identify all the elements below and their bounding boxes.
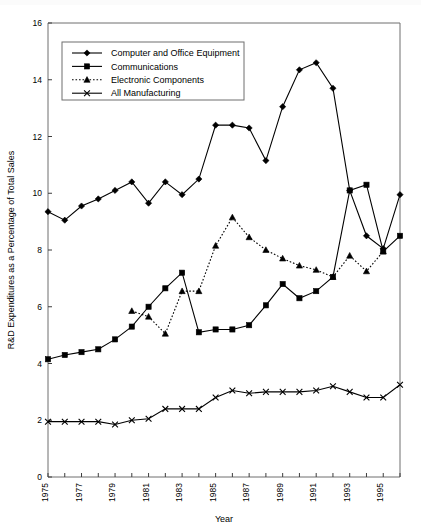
x-tick-label: 1989: [275, 483, 285, 502]
data-point-marker-square: [230, 327, 235, 332]
data-point-marker-triangle: [129, 308, 135, 314]
data-point-marker-square: [146, 304, 151, 309]
data-point-marker-diamond: [313, 60, 319, 66]
data-point-marker-square: [45, 357, 50, 362]
data-point-marker-square: [112, 337, 117, 342]
data-point-marker-square: [179, 270, 184, 275]
data-point-marker-diamond: [95, 196, 101, 202]
data-point-marker-square: [196, 330, 201, 335]
data-point-marker-square: [79, 350, 84, 355]
y-tick-label: 8: [37, 245, 42, 255]
data-point-marker-diamond: [213, 122, 219, 128]
x-tick-label: 1981: [141, 483, 151, 502]
data-point-marker-square: [247, 323, 252, 328]
data-point-marker-triangle: [229, 214, 235, 220]
data-point-marker-square: [213, 327, 218, 332]
series-all-manufacturing: [45, 382, 403, 428]
rd-expenditures-line-chart: 0246810121416 19751977197919811983198519…: [0, 0, 421, 532]
y-axis-title: R&D Expenditures as a Percentage of Tota…: [6, 150, 16, 349]
data-point-marker-triangle: [246, 234, 252, 240]
y-tick-label: 16: [33, 18, 43, 28]
data-point-marker-diamond: [296, 67, 302, 73]
x-tick-label: 1983: [174, 483, 184, 502]
series-line: [48, 185, 400, 359]
y-tick-label: 6: [37, 302, 42, 312]
y-tick-label: 0: [37, 472, 42, 482]
data-point-marker-square: [364, 182, 369, 187]
data-point-marker-square: [163, 286, 168, 291]
data-point-marker-diamond: [263, 158, 269, 164]
x-tick-label: 1975: [40, 483, 50, 502]
series-line: [132, 217, 383, 333]
series-communications: [45, 182, 402, 362]
series-electronic-components: [129, 214, 387, 336]
data-point-marker-square: [62, 352, 67, 357]
data-point-marker-square: [297, 296, 302, 301]
data-point-marker-diamond: [229, 122, 235, 128]
data-point-marker-square: [96, 347, 101, 352]
y-axis-ticks: 0246810121416: [33, 18, 52, 482]
data-point-marker-square: [84, 64, 89, 69]
x-tick-label: 1987: [241, 483, 251, 502]
chart-container: 0246810121416 19751977197919811983198519…: [0, 0, 421, 532]
data-point-marker-diamond: [280, 104, 286, 110]
x-tick-label: 1995: [375, 483, 385, 502]
data-point-marker-triangle: [280, 255, 286, 261]
data-point-marker-square: [397, 233, 402, 238]
x-tick-label: 1991: [308, 483, 318, 502]
x-tick-label: 1985: [208, 483, 218, 502]
y-tick-label: 10: [33, 188, 43, 198]
data-point-marker-diamond: [397, 192, 403, 198]
y-tick-label: 12: [33, 132, 43, 142]
data-point-marker-square: [263, 303, 268, 308]
series-group: [45, 60, 403, 428]
data-point-marker-square: [129, 324, 134, 329]
data-point-marker-triangle: [213, 243, 219, 249]
data-point-marker-x: [347, 389, 353, 395]
y-tick-label: 2: [37, 415, 42, 425]
legend-item-label: Electronic Components: [111, 75, 205, 85]
chart-legend: Computer and Office EquipmentCommunicati…: [62, 42, 244, 100]
data-point-marker-x: [213, 395, 219, 401]
legend-item-label: Computer and Office Equipment: [111, 48, 240, 58]
data-point-marker-diamond: [246, 125, 252, 131]
data-point-marker-triangle: [263, 247, 269, 253]
data-point-marker-diamond: [330, 85, 336, 91]
x-tick-label: 1993: [342, 483, 352, 502]
x-tick-label: 1979: [107, 483, 117, 502]
y-tick-label: 14: [33, 75, 43, 85]
data-point-marker-diamond: [112, 187, 118, 193]
data-point-marker-square: [347, 188, 352, 193]
y-tick-label: 4: [37, 359, 42, 369]
x-axis-title: Year: [215, 514, 233, 524]
x-tick-label: 1977: [74, 483, 84, 502]
data-point-marker-square: [314, 289, 319, 294]
legend-item-label: Communications: [111, 62, 179, 72]
data-point-marker-square: [280, 281, 285, 286]
data-point-marker-triangle: [179, 288, 185, 294]
data-point-marker-triangle: [162, 331, 168, 337]
data-point-marker-diamond: [45, 209, 51, 215]
legend-item-label: All Manufacturing: [111, 88, 181, 98]
data-point-marker-triangle: [347, 252, 353, 258]
